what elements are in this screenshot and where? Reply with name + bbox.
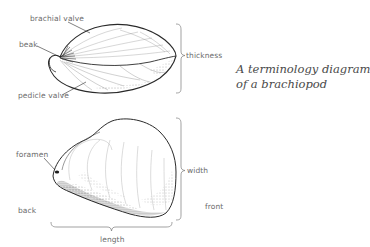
beak-label: beak [19, 41, 38, 49]
width-label: width [187, 167, 208, 175]
top-view-shell [53, 119, 176, 217]
width-brace [176, 118, 185, 220]
brachial-valve-leader [68, 22, 90, 33]
caption-line-2: of a brachiopod [236, 77, 370, 92]
length-brace [51, 222, 172, 231]
brachial-valve-label: brachial valve [30, 15, 84, 23]
side-view-shell [49, 24, 176, 93]
thickness-label: thickness [186, 52, 222, 60]
caption-line-1: A terminology diagram [236, 62, 370, 77]
side-shell-outline [49, 24, 176, 93]
diagram-caption: A terminology diagram of a brachiopod [236, 62, 370, 92]
back-label: back [18, 207, 36, 215]
length-label: length [100, 236, 125, 244]
valve-commissure [60, 56, 176, 65]
foramen-leader [44, 158, 55, 170]
front-label: front [205, 203, 223, 211]
foramen-label: foramen [16, 151, 48, 159]
thickness-brace [176, 24, 185, 93]
pedicle-valve-label: pedicle valve [18, 92, 69, 100]
foramen-opening [55, 171, 59, 174]
beak-leader [37, 46, 58, 56]
